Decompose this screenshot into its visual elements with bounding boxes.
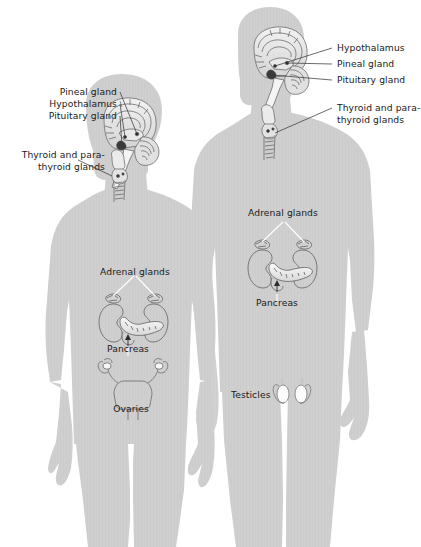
male-label-pituitary-gland: Pituitary gland — [337, 74, 419, 86]
male-label-hypothalamus: Hypothalamus — [337, 42, 419, 54]
female-label-thyroid-and-parathyroid-glands-line2: thyroid glands — [2, 161, 105, 173]
male-label-pineal-gland: Pineal gland — [337, 58, 419, 70]
female-label-pineal-gland: Pineal gland — [4, 86, 117, 98]
male-label-testicles: Testicles — [231, 389, 291, 401]
male-adrenal-leader-lines — [262, 222, 304, 242]
female-label-thyroid-and-parathyroid-glands-line1: Thyroid and para- — [2, 149, 105, 161]
male-brain-illustration — [254, 27, 309, 118]
male-adrenal-kidney-pancreas-illustration — [248, 240, 317, 302]
female-label-pituitary-gland: Pituitary gland — [4, 110, 117, 122]
female-label-ovaries: Ovaries — [88, 403, 174, 415]
male-label-thyroid-and-parathyroid-glands-line2: thyroid glands — [337, 114, 421, 126]
male-thyroid-leader-line — [275, 108, 332, 133]
male-thyroid-illustration — [261, 105, 277, 160]
female-label-adrenal-glands: Adrenal glands — [85, 266, 185, 278]
female-label-hypothalamus: Hypothalamus — [4, 98, 117, 110]
female-adrenal-leader-lines — [113, 276, 155, 296]
female-label-pancreas: Pancreas — [85, 343, 171, 355]
male-label-adrenal-glands: Adrenal glands — [233, 207, 333, 219]
male-label-pancreas: Pancreas — [234, 297, 320, 309]
male-label-thyroid-and-parathyroid-glands-line1: Thyroid and para- — [337, 102, 421, 114]
